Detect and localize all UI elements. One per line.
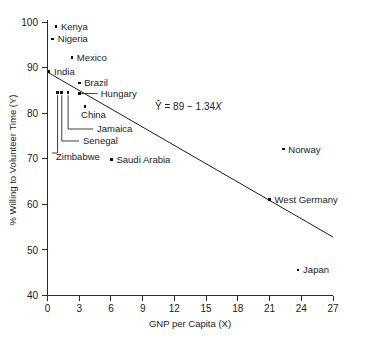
- data-point-label: Japan: [303, 264, 329, 275]
- plot-canvas: 405060708090100 0369121518212427 KenyaNi…: [0, 0, 366, 340]
- x-tick-label: 12: [169, 303, 181, 314]
- x-tick-label: 15: [201, 303, 213, 314]
- y-axis-ticks: 405060708090100: [21, 17, 47, 302]
- data-point-label: Nigeria: [58, 33, 89, 44]
- x-tick-label: 27: [327, 303, 339, 314]
- x-tick-label: 6: [108, 303, 114, 314]
- data-point-marker: [51, 38, 54, 41]
- data-point-label: Kenya: [61, 21, 89, 32]
- data-point-marker: [78, 82, 81, 85]
- regression-equation: Ŷ = 89 − 1.34X: [155, 100, 222, 112]
- y-axis-title: % Willing to Volunteer Time (Y): [7, 95, 18, 226]
- data-point-marker: [56, 91, 59, 94]
- data-point-label: West Germany: [275, 194, 338, 205]
- y-tick-label: 70: [27, 153, 39, 164]
- scatter-chart: 405060708090100 0369121518212427 KenyaNi…: [0, 0, 366, 340]
- data-point-label: China: [81, 109, 107, 120]
- data-points: KenyaNigeriaMexicoIndiaBrazilHungaryChin…: [48, 21, 338, 275]
- data-point-marker: [67, 91, 70, 94]
- data-point-label: Mexico: [77, 52, 107, 63]
- data-point-marker: [268, 198, 271, 201]
- data-point-marker: [60, 91, 63, 94]
- data-point-label: Saudi Arabia: [116, 154, 171, 165]
- y-tick-label: 40: [27, 290, 39, 301]
- data-point-marker: [78, 92, 81, 95]
- y-tick-label: 80: [27, 108, 39, 119]
- x-tick-label: 18: [232, 303, 244, 314]
- x-tick-label: 3: [76, 303, 82, 314]
- data-point-label: Zimbabwe: [56, 151, 100, 162]
- x-axis-title: GNP per Capita (X): [149, 318, 231, 329]
- x-axis-ticks: 0369121518212427: [45, 296, 339, 315]
- y-tick-label: 100: [21, 17, 38, 28]
- data-point-label: Jamaica: [97, 123, 133, 134]
- data-point-marker: [297, 269, 300, 272]
- data-point-marker: [55, 25, 58, 28]
- data-point-marker: [48, 70, 51, 73]
- x-tick-label: 21: [264, 303, 276, 314]
- y-tick-label: 60: [27, 199, 39, 210]
- data-point-marker: [84, 105, 87, 108]
- data-point-marker: [110, 158, 113, 161]
- y-tick-label: 50: [27, 245, 39, 256]
- x-tick-label: 24: [296, 303, 308, 314]
- x-tick-label: 9: [140, 303, 146, 314]
- data-point-marker: [282, 148, 285, 151]
- y-tick-label: 90: [27, 62, 39, 73]
- data-point-label: Norway: [288, 144, 320, 155]
- data-point-label: Hungary: [101, 88, 137, 99]
- x-tick-label: 0: [45, 303, 51, 314]
- data-point-label: Senegal: [83, 135, 118, 146]
- data-point-label: Brazil: [84, 77, 108, 88]
- data-point-marker: [71, 56, 74, 59]
- data-point-label: India: [54, 66, 75, 77]
